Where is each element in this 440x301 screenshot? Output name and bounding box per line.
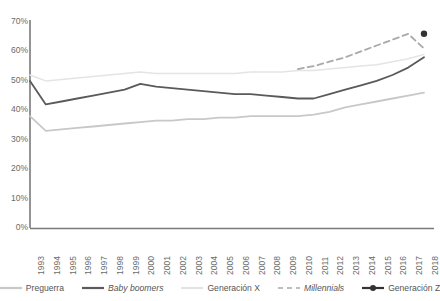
x-tick-label: 2009 <box>289 256 298 275</box>
x-tick-label: 1998 <box>116 256 125 275</box>
x-tick-label: 2011 <box>321 257 330 275</box>
x-tick-label: 2006 <box>242 256 251 275</box>
legend-item[interactable]: Preguerra <box>0 283 64 293</box>
x-tick-label: 2010 <box>305 256 314 275</box>
x-axis: 1993199419951996199719981999200020012002… <box>30 231 434 277</box>
legend-swatch-icon <box>362 283 384 293</box>
plot-svg <box>0 0 440 232</box>
x-tick-label: 1995 <box>69 256 78 275</box>
line-chart: 70%60%50%40%30%20%10%0% 1993199419951996… <box>0 0 440 301</box>
legend-label: Preguerra <box>26 283 64 293</box>
x-tick-label: 2003 <box>195 256 204 275</box>
x-tick-label: 2018 <box>431 256 440 275</box>
legend-swatch-icon <box>0 283 22 293</box>
plot-area <box>0 0 440 232</box>
x-tick-label: 2013 <box>352 256 361 275</box>
series-line <box>30 57 424 104</box>
legend-label: Millennials <box>304 283 344 293</box>
chart-legend: PreguerraBaby boomersGeneración XMillenn… <box>0 279 440 297</box>
x-tick-label: 2000 <box>147 256 156 275</box>
x-tick-label: 2007 <box>258 256 267 275</box>
series-line <box>30 93 424 131</box>
x-tick-label: 2005 <box>226 256 235 275</box>
x-tick-label: 1999 <box>132 256 141 275</box>
x-tick-label: 2002 <box>179 256 188 275</box>
legend-label: Baby boomers <box>108 283 163 293</box>
legend-swatch-icon <box>181 283 203 293</box>
x-tick-label: 2016 <box>399 256 408 275</box>
x-tick-label: 1996 <box>84 256 93 275</box>
legend-swatch-icon <box>278 283 300 293</box>
legend-item[interactable]: Baby boomers <box>82 283 163 293</box>
legend-label: Generación X <box>207 283 260 293</box>
series-line <box>30 54 424 81</box>
legend-swatch-icon <box>82 283 104 293</box>
legend-label: Generación Z <box>388 283 440 293</box>
x-tick-label: 1994 <box>53 256 62 275</box>
axis-lines <box>30 20 434 229</box>
x-tick-label: 2017 <box>415 256 424 275</box>
x-tick-label: 1997 <box>100 256 109 275</box>
legend-item[interactable]: Generación X <box>181 283 260 293</box>
x-tick-label: 2008 <box>273 256 282 275</box>
x-tick-label: 1993 <box>37 256 46 275</box>
x-tick-label: 2015 <box>384 256 393 275</box>
x-tick-label: 2012 <box>336 256 345 275</box>
x-tick-label: 2014 <box>368 256 377 275</box>
x-tick-label: 2004 <box>210 256 219 275</box>
series-point-marker <box>421 31 427 37</box>
legend-item[interactable]: Millennials <box>278 283 344 293</box>
series-line <box>298 34 424 69</box>
series-lines <box>30 31 427 131</box>
legend-item[interactable]: Generación Z <box>362 283 440 293</box>
x-tick-label: 2001 <box>163 256 172 275</box>
